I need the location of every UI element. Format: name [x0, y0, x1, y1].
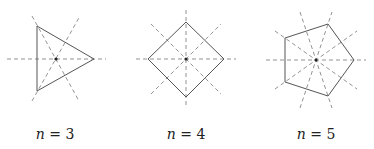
panel-square: [136, 10, 236, 108]
panel-pentagon: [266, 12, 366, 108]
panel-triangle: [7, 16, 106, 101]
label-n5: n = 5: [276, 126, 356, 142]
label-variable: n: [36, 126, 45, 142]
triangle-polygon: [37, 26, 94, 91]
center-point: [184, 57, 187, 60]
label-value: 4: [196, 126, 205, 142]
label-equals: =: [45, 126, 66, 142]
label-value: 5: [326, 126, 335, 142]
label-value: 3: [65, 126, 74, 142]
label-n3: n = 3: [15, 126, 95, 142]
label-equals: =: [176, 126, 197, 142]
center-point: [54, 57, 57, 60]
label-n4: n = 4: [146, 126, 226, 142]
label-variable: n: [167, 126, 176, 142]
center-point: [314, 58, 317, 61]
label-variable: n: [297, 126, 306, 142]
label-equals: =: [306, 126, 327, 142]
